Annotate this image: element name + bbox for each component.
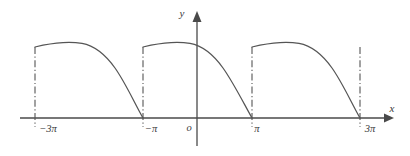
x-axis-label: x (389, 102, 395, 114)
y-axis-label: y (179, 7, 185, 19)
curve-branch-left (35, 42, 143, 118)
tick-label-neg-three-pi: −3π (39, 123, 57, 134)
tick-label-neg-pi: −π (145, 123, 158, 134)
x-axis-arrow-icon (384, 114, 394, 123)
figure-container: y x o −3π −π π 3π (0, 0, 410, 156)
function-graph: y x o −3π −π π 3π (0, 0, 410, 156)
y-axis (193, 11, 202, 146)
curve-branch-right (252, 42, 360, 118)
origin-label: o (186, 122, 191, 133)
tick-label-three-pi: 3π (364, 123, 376, 134)
tick-label-pi: π (254, 123, 260, 134)
x-axis (20, 114, 394, 123)
y-axis-arrow-icon (193, 11, 202, 22)
